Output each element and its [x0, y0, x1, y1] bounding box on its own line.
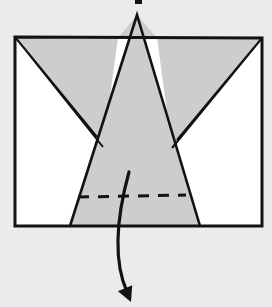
- origami-figure-svg: Origami fold step diagram: [0, 0, 272, 307]
- page-artifact-mark: [135, 0, 142, 4]
- origami-diagram: Origami fold step diagram: [0, 0, 272, 307]
